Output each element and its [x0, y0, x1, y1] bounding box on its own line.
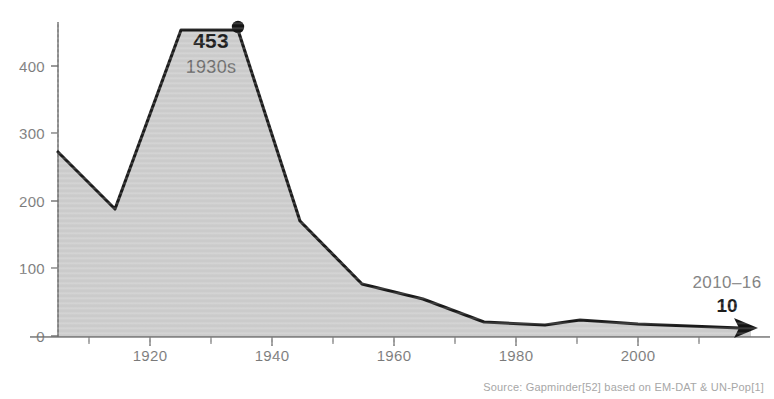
x-tick-label-2000: 2000: [621, 347, 656, 364]
peak-marker-dot-icon: [232, 21, 244, 33]
peak-value-label: 453: [193, 29, 229, 52]
chart-container: 400 300 200 100 0 1920 1940 1960 1980 20…: [0, 0, 774, 399]
peak-era-label: 1930s: [186, 57, 237, 77]
x-tick-label-1960: 1960: [377, 347, 412, 364]
end-period-label: 2010–16: [693, 273, 762, 292]
x-tick-label-1980: 1980: [499, 347, 534, 364]
y-tick-label-200: 200: [19, 193, 45, 210]
y-tick-label-300: 300: [19, 125, 45, 142]
x-tick-label-1920: 1920: [133, 347, 168, 364]
area-chart-svg: 400 300 200 100 0 1920 1940 1960 1980 20…: [0, 0, 774, 399]
source-note: Source: Gapminder[52] based on EM-DAT & …: [483, 381, 764, 393]
area-fill-path: [58, 30, 751, 337]
x-tick-label-1940: 1940: [255, 347, 290, 364]
y-tick-label-400: 400: [19, 58, 45, 75]
end-value-label: 10: [716, 295, 737, 316]
y-tick-label-100: 100: [19, 260, 45, 277]
